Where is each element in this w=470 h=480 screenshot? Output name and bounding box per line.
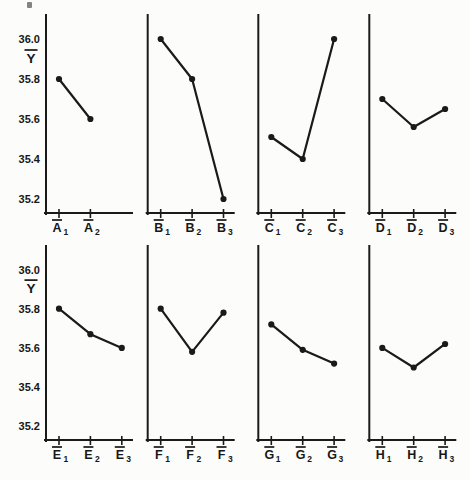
panel-G: G1G2G3 — [257, 246, 344, 464]
data-point — [56, 76, 62, 82]
data-point — [379, 96, 385, 102]
panel-E: 36.035.835.635.435.2YE1E2E3 — [19, 246, 132, 464]
x-tick-label: C — [296, 221, 305, 235]
data-point — [189, 349, 195, 355]
x-tick-label: F — [155, 448, 163, 462]
series-line — [161, 309, 224, 352]
x-tick-label-subscript: 2 — [418, 454, 423, 464]
x-tick-label-subscript: 2 — [95, 454, 100, 464]
data-point — [158, 306, 164, 312]
series-line — [382, 344, 445, 368]
x-tick-label: G — [296, 448, 306, 462]
y-tick-label: 35.6 — [19, 342, 40, 354]
x-tick-label: G — [327, 448, 337, 462]
x-tick-label: D — [376, 221, 385, 235]
y-tick-label: 35.2 — [19, 193, 40, 205]
x-tick-label: H — [407, 448, 416, 462]
data-point — [331, 36, 337, 42]
data-point — [379, 345, 385, 351]
panel-B: B1B2B3 — [147, 15, 234, 237]
series-line — [382, 99, 445, 127]
panel-A: 36.035.835.635.435.2YA1A2 — [19, 15, 132, 237]
data-point — [189, 76, 195, 82]
x-tick-label-subscript: 1 — [276, 227, 281, 237]
x-tick-label-subscript: 3 — [339, 454, 344, 464]
x-tick-label: G — [264, 448, 274, 462]
panel-H: H1H2H3 — [368, 246, 455, 464]
data-point — [411, 364, 417, 370]
x-tick-label-subscript: 2 — [418, 227, 423, 237]
panel-D: D1D2D3 — [368, 15, 455, 237]
series-line — [59, 309, 122, 348]
y-tick-label: 35.6 — [19, 113, 40, 125]
y-tick-label: 35.2 — [19, 420, 40, 432]
data-point — [87, 116, 93, 122]
x-tick-label: A — [84, 221, 93, 235]
x-tick-label-subscript: 2 — [307, 227, 312, 237]
x-tick-label: C — [328, 221, 337, 235]
data-point — [56, 306, 62, 312]
x-tick-label: C — [265, 221, 274, 235]
data-point — [268, 134, 274, 140]
series-line — [271, 324, 334, 363]
data-point — [411, 124, 417, 130]
y-axis-title: Y — [26, 51, 35, 66]
x-tick-label: D — [439, 221, 448, 235]
scan-artifact-mark — [27, 2, 32, 8]
data-point — [442, 341, 448, 347]
x-tick-label: E — [84, 448, 92, 462]
y-tick-label: 36.0 — [19, 264, 40, 276]
x-tick-label: A — [52, 221, 61, 235]
x-tick-label: F — [186, 448, 194, 462]
panel-C: C1C2C3 — [257, 15, 344, 237]
data-point — [442, 106, 448, 112]
x-tick-label-subscript: 2 — [197, 454, 202, 464]
x-tick-label-subscript: 1 — [64, 227, 69, 237]
y-tick-label: 36.0 — [19, 33, 40, 45]
x-tick-label: E — [53, 448, 61, 462]
x-tick-label-subscript: 1 — [387, 454, 392, 464]
x-tick-label-subscript: 3 — [450, 227, 455, 237]
x-tick-label-subscript: 1 — [165, 454, 170, 464]
y-tick-label: 35.8 — [19, 303, 40, 315]
main-effects-chart: 36.035.835.635.435.2YA1A2B1B2B3C1C2C3D1D… — [0, 0, 470, 480]
x-tick-label: B — [217, 221, 226, 235]
series-line — [161, 39, 224, 199]
data-point — [220, 196, 226, 202]
x-tick-label-subscript: 1 — [387, 227, 392, 237]
x-tick-label: F — [218, 448, 226, 462]
x-tick-label-subscript: 1 — [64, 454, 69, 464]
x-tick-label-subscript: 3 — [228, 454, 233, 464]
x-tick-label: H — [439, 448, 448, 462]
x-tick-label-subscript: 2 — [197, 227, 202, 237]
x-tick-label-subscript: 3 — [228, 227, 233, 237]
x-tick-label-subscript: 3 — [126, 454, 131, 464]
data-point — [331, 360, 337, 366]
y-axis-labels: 36.035.835.635.435.2Y — [19, 33, 41, 205]
x-tick-label-subscript: 2 — [307, 454, 312, 464]
x-tick-label-subscript: 1 — [276, 454, 281, 464]
x-tick-label: H — [376, 448, 385, 462]
data-point — [268, 321, 274, 327]
data-point — [220, 310, 226, 316]
x-tick-label-subscript: 3 — [339, 227, 344, 237]
data-point — [119, 345, 125, 351]
y-axis-title: Y — [26, 281, 35, 296]
y-tick-label: 35.4 — [19, 153, 41, 165]
y-tick-label: 35.8 — [19, 73, 40, 85]
panel-F: F1F2F3 — [147, 246, 234, 464]
series-line — [271, 39, 334, 159]
x-tick-label: B — [154, 221, 163, 235]
y-tick-label: 35.4 — [19, 381, 41, 393]
x-tick-label-subscript: 3 — [450, 454, 455, 464]
y-axis-labels: 36.035.835.635.435.2Y — [19, 264, 41, 433]
data-point — [87, 331, 93, 337]
x-tick-label: E — [116, 448, 124, 462]
x-tick-label-subscript: 1 — [165, 227, 170, 237]
data-point — [300, 156, 306, 162]
data-point — [300, 347, 306, 353]
data-point — [158, 36, 164, 42]
x-tick-label: B — [186, 221, 195, 235]
series-line — [59, 79, 90, 119]
main-effects-figure: 36.035.835.635.435.2YA1A2B1B2B3C1C2C3D1D… — [0, 0, 470, 480]
